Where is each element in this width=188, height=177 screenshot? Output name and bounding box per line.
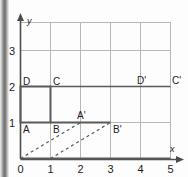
vertex-labels: D C A B A' B' D' C' <box>23 75 181 135</box>
vertex-label-a: A <box>23 124 30 135</box>
x-tick-4: 4 <box>137 163 143 175</box>
x-tick-2: 2 <box>77 163 83 175</box>
x-tick-3: 3 <box>107 163 113 175</box>
vertex-label-d: D <box>23 76 30 87</box>
grid-lines <box>21 22 171 159</box>
y-axis-arrow-icon <box>17 13 24 21</box>
plot-canvas: 0 1 2 3 4 5 1 2 3 x y D C A B A' B' D' C… <box>0 0 188 177</box>
coordinate-figure: 0 1 2 3 4 5 1 2 3 x y D C A B A' B' D' C… <box>0 0 188 177</box>
vertex-label-c-prime: C' <box>172 75 181 86</box>
x-tick-0: 0 <box>17 163 23 175</box>
rectangle-abcd <box>21 87 51 123</box>
vertex-label-b: B <box>53 124 60 135</box>
y-tick-2: 2 <box>9 81 15 93</box>
x-axis-label: x <box>169 144 175 154</box>
y-axis-tick-labels: 1 2 3 <box>9 45 15 129</box>
vertex-label-b-prime: B' <box>113 124 122 135</box>
x-tick-5: 5 <box>167 163 173 175</box>
shear-rays <box>21 123 111 159</box>
x-axis-tick-labels: 0 1 2 3 4 5 <box>17 163 173 175</box>
x-axis-arrow-icon <box>176 156 184 163</box>
vertex-label-a-prime: A' <box>77 110 86 121</box>
y-tick-1: 1 <box>9 117 15 129</box>
axes <box>21 17 181 160</box>
vertex-label-c: C <box>53 76 60 87</box>
vertex-label-d-prime: D' <box>137 75 146 86</box>
x-tick-1: 1 <box>47 163 53 175</box>
y-axis-label: y <box>26 16 32 26</box>
y-tick-3: 3 <box>9 45 15 57</box>
